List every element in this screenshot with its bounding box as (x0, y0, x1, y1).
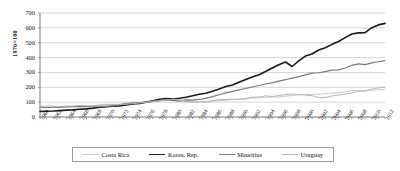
x-tick-label: 2012 (384, 108, 395, 121)
y-tick-label: 200 (25, 84, 35, 90)
y-tick-label: 500 (25, 40, 35, 46)
plot-area (40, 13, 385, 117)
y-tick-label: 100 (25, 99, 35, 105)
legend-item-costa-rica[interactable]: Costa Rica (83, 151, 129, 158)
legend-swatch-icon (282, 154, 298, 155)
legend-label: Korea, Rep. (168, 151, 199, 158)
y-tick-label: 400 (25, 54, 35, 60)
legend-item-uruguay[interactable]: Uruguay (282, 151, 323, 158)
chart-legend: Costa RicaKorea, Rep.MauritiusUruguay (72, 147, 334, 162)
legend-swatch-icon (219, 154, 235, 155)
legend-label: Uruguay (301, 151, 323, 158)
series-line-korea-rep (40, 23, 385, 111)
y-axis-tick-labels: 0100200300400500600700 (0, 0, 38, 125)
y-tick-label: 300 (25, 69, 35, 75)
chart-svg (40, 13, 385, 117)
legend-item-korea-rep[interactable]: Korea, Rep. (149, 151, 198, 158)
chart-figure: 1976=100 0100200300400500600700 19601962… (0, 0, 400, 171)
y-tick-label: 600 (25, 25, 35, 31)
legend-label: Costa Rica (102, 151, 130, 158)
legend-swatch-icon (83, 154, 99, 155)
x-axis-tick-labels: 1960196219641966196819701972197419761978… (40, 118, 385, 144)
legend-item-mauritius[interactable]: Mauritius (219, 151, 262, 158)
y-tick-label: 0 (32, 114, 35, 120)
legend-swatch-icon (149, 154, 165, 155)
legend-label: Mauritius (237, 151, 262, 158)
y-tick-label: 700 (25, 10, 35, 16)
